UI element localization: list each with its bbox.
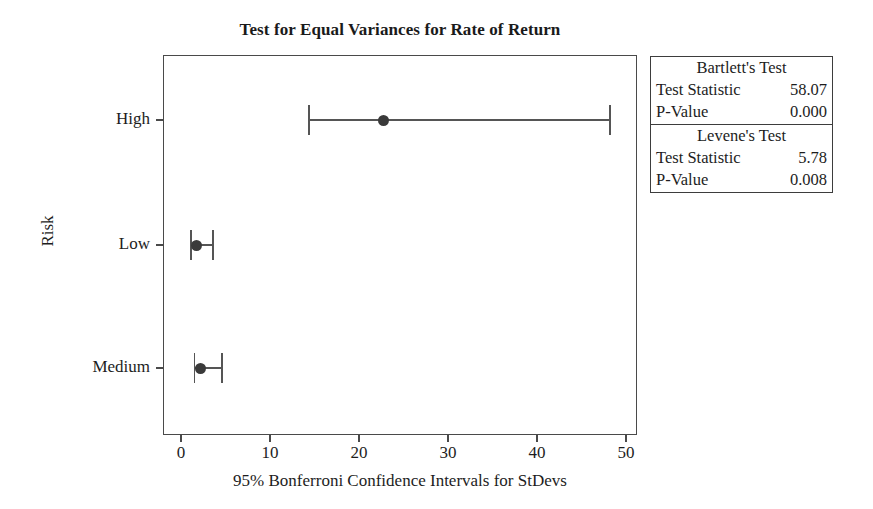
y-axis-tick [156, 367, 163, 369]
test-results-box: Bartlett's TestTest Statistic58.07P-Valu… [650, 56, 833, 193]
test-result-row: Test Statistic5.78 [651, 148, 832, 170]
interval-upper-cap [212, 230, 214, 260]
x-axis-tick-label: 50 [596, 443, 656, 463]
test-result-label: P-Value [656, 170, 708, 190]
test-result-section: Bartlett's TestTest Statistic58.07P-Valu… [651, 57, 832, 124]
x-axis-title: 95% Bonferroni Confidence Intervals for … [163, 471, 637, 491]
y-axis-category-label: Low [0, 234, 150, 254]
interval-upper-cap [221, 353, 223, 383]
y-axis-tick [156, 119, 163, 121]
interval-lower-cap [308, 105, 310, 135]
test-result-value: 0.008 [790, 170, 827, 190]
confidence-interval-line [309, 119, 610, 121]
data-point-marker [191, 240, 202, 251]
test-result-label: Test Statistic [656, 148, 741, 168]
test-result-label: Test Statistic [656, 80, 741, 100]
test-result-row: Test Statistic58.07 [651, 80, 832, 102]
test-result-row: P-Value0.000 [651, 102, 832, 124]
x-axis-tick [269, 435, 271, 442]
chart-title: Test for Equal Variances for Rate of Ret… [163, 20, 637, 40]
x-axis-tick-label: 0 [151, 443, 211, 463]
x-axis-tick-label: 20 [329, 443, 389, 463]
test-result-value: 5.78 [798, 148, 827, 168]
data-point-marker [195, 363, 206, 374]
test-result-value: 58.07 [790, 80, 827, 100]
test-result-value: 0.000 [790, 102, 827, 122]
x-axis-tick [358, 435, 360, 442]
test-result-heading: Bartlett's Test [651, 57, 832, 80]
data-point-marker [378, 115, 389, 126]
x-axis-tick [536, 435, 538, 442]
test-result-section: Levene's TestTest Statistic5.78P-Value0.… [651, 124, 832, 192]
test-result-row: P-Value0.008 [651, 170, 832, 192]
interval-upper-cap [609, 105, 611, 135]
test-result-label: P-Value [656, 102, 708, 122]
x-axis-tick-label: 30 [418, 443, 478, 463]
x-axis-tick [447, 435, 449, 442]
y-axis-title: Risk [38, 178, 58, 284]
plot-area [163, 55, 637, 435]
x-axis-tick [180, 435, 182, 442]
x-axis-tick-label: 40 [507, 443, 567, 463]
x-axis-tick [625, 435, 627, 442]
y-axis-tick [156, 244, 163, 246]
test-result-heading: Levene's Test [651, 125, 832, 148]
x-axis-tick-label: 10 [240, 443, 300, 463]
y-axis-category-label: Medium [0, 357, 150, 377]
y-axis-category-label: High [0, 109, 150, 129]
